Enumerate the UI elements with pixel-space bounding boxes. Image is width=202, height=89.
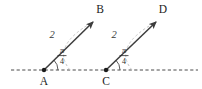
figure-canvas: A B 2 π 4 C D 2 π 4 xyxy=(0,0,202,89)
angle-arc-A xyxy=(54,60,58,70)
magnitude-label-CD: 2 xyxy=(111,29,117,40)
point-C-label: C xyxy=(102,75,110,87)
point-C-dot xyxy=(104,68,108,72)
magnitude-label-AB: 2 xyxy=(49,29,55,40)
point-B-label: B xyxy=(96,3,104,15)
geometry-figure: A B 2 π 4 C D 2 π 4 xyxy=(0,0,202,89)
angle-denominator-A: 4 xyxy=(60,57,64,66)
angle-denominator-C: 4 xyxy=(122,57,126,66)
angle-arc-C xyxy=(116,60,120,70)
point-A-dot xyxy=(42,68,46,72)
point-A-label: A xyxy=(40,75,49,87)
point-D-label: D xyxy=(159,3,167,15)
